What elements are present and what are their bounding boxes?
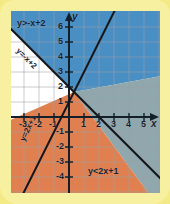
y-tick-1: 1 [58, 97, 63, 106]
x-tick-4: 4 [126, 120, 131, 129]
y-tick-4: 4 [58, 52, 63, 61]
y-tick--3: -3 [56, 157, 64, 166]
y-axis-label: y [72, 12, 78, 22]
y-tick-2: 2 [58, 82, 63, 91]
y-tick--2: -2 [56, 142, 64, 151]
graph-svg [11, 11, 160, 193]
x-tick--2: -2 [34, 120, 42, 129]
x-axis-label: x [151, 119, 157, 129]
label-upper-inequality: y>-x+2 [17, 19, 46, 28]
y-tick--1: -1 [56, 127, 64, 136]
y-tick--4: -4 [56, 172, 64, 181]
x-tick-5: 5 [141, 120, 146, 129]
x-tick-1: 1 [81, 120, 86, 129]
label-lower-inequality: y<2x+1 [88, 167, 119, 176]
y-tick-3: 3 [58, 67, 63, 76]
y-tick-6: 6 [58, 22, 63, 31]
x-tick-2: 2 [96, 120, 101, 129]
plot-area: y>-x+2 y=-x+2 y=2x+1 y<2x+1 y x -3 -2 -1… [11, 11, 160, 193]
x-tick-3: 3 [111, 120, 116, 129]
figure-frame: y>-x+2 y=-x+2 y=2x+1 y<2x+1 y x -3 -2 -1… [0, 0, 170, 204]
x-tick--3: -3 [19, 120, 27, 129]
y-tick-5: 5 [58, 37, 63, 46]
